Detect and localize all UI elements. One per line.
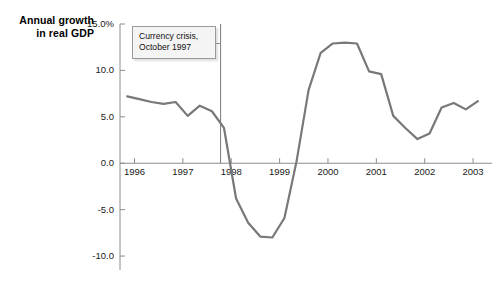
- gdp-growth-line-chart: [118, 22, 494, 274]
- y-axis-tick-label: 15.0%: [62, 19, 114, 29]
- annotation-line-2: October 1997: [139, 42, 210, 53]
- axis-lines: [120, 24, 492, 270]
- y-axis-tick-label: 0.0: [62, 158, 114, 168]
- currency-crisis-annotation: Currency crisis, October 1997: [132, 26, 216, 59]
- y-axis-tick-label: 10.0: [62, 65, 114, 75]
- plot-area: [118, 22, 494, 274]
- y-axis-tick-label: -10.0: [62, 251, 114, 261]
- annotation-leader-line: [216, 43, 221, 44]
- y-axis: 15.0%10.05.00.0-5.0-10.0: [58, 22, 114, 274]
- data-series-group: [127, 43, 478, 238]
- annotation-line-1: Currency crisis,: [139, 31, 210, 42]
- y-axis-tick-label: 5.0: [62, 112, 114, 122]
- chart-figure: Annual growth in real GDP 15.0%10.05.00.…: [0, 0, 500, 297]
- y-axis-tick-label: -5.0: [62, 205, 114, 215]
